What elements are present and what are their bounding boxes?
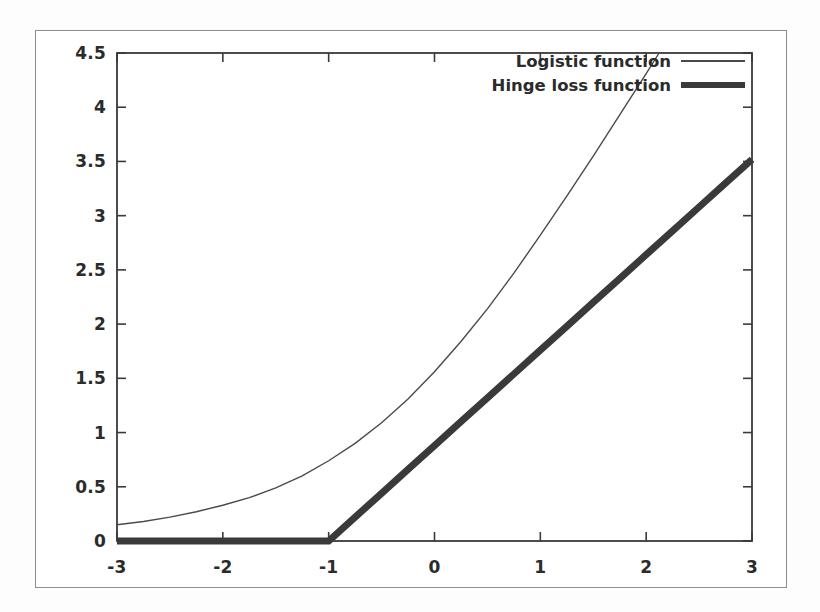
y-tick-label: 0 bbox=[40, 531, 106, 551]
legend-line-sample-logistic bbox=[681, 60, 745, 62]
x-tick-label: -2 bbox=[213, 557, 232, 577]
y-tick-label: 1.5 bbox=[40, 368, 106, 388]
legend-label-logistic: Logistic function bbox=[516, 52, 671, 71]
legend-line-sample-hinge bbox=[681, 82, 745, 88]
x-tick-label: 0 bbox=[428, 557, 440, 577]
y-tick-label: 4.5 bbox=[40, 43, 106, 63]
x-axis-ticks bbox=[117, 53, 752, 541]
legend-label-hinge: Hinge loss function bbox=[492, 76, 671, 95]
y-tick-label: 1 bbox=[40, 423, 106, 443]
data-series-layer bbox=[117, 53, 752, 541]
plot-frame bbox=[117, 53, 752, 541]
x-tick-label: 2 bbox=[640, 557, 652, 577]
y-tick-label: 0.5 bbox=[40, 477, 106, 497]
legend-entry-hinge: Hinge loss function bbox=[492, 74, 745, 96]
y-tick-label: 4 bbox=[40, 97, 106, 117]
x-tick-label: -1 bbox=[319, 557, 338, 577]
chart-legend: Logistic function Hinge loss function bbox=[487, 50, 749, 98]
y-tick-label: 3.5 bbox=[40, 151, 106, 171]
y-axis-ticks bbox=[117, 53, 752, 541]
y-tick-label: 2 bbox=[40, 314, 106, 334]
x-tick-label: 1 bbox=[534, 557, 546, 577]
x-tick-label: 3 bbox=[746, 557, 758, 577]
x-tick-label: -3 bbox=[107, 557, 126, 577]
series-line-hinge-loss-function bbox=[117, 159, 752, 541]
legend-entry-logistic: Logistic function bbox=[516, 50, 745, 72]
y-tick-label: 2.5 bbox=[40, 260, 106, 280]
y-tick-label: 3 bbox=[40, 206, 106, 226]
series-line-logistic-function bbox=[117, 53, 659, 525]
figure-container: 00.511.522.533.544.5 -3-2-10123 Logistic… bbox=[0, 0, 820, 612]
